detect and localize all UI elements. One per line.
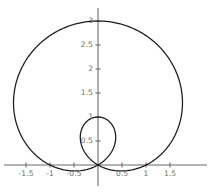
x-tick-label-5: 1.5 bbox=[164, 169, 176, 178]
x-tick-label-0: -1.5 bbox=[18, 169, 33, 178]
x-tick-label-3: 0.5 bbox=[116, 169, 128, 178]
plot-canvas: -1.5-1-0.50.511.5 0.511.522.53 bbox=[0, 0, 211, 193]
y-tick-label-1: 1 bbox=[88, 112, 93, 121]
x-tick-label-1: -1 bbox=[46, 169, 54, 178]
plot-background bbox=[0, 0, 211, 193]
y-tick-label-2: 1.5 bbox=[81, 88, 93, 97]
x-tick-label-4: 1 bbox=[144, 169, 149, 178]
y-tick-label-5: 3 bbox=[88, 16, 93, 25]
y-tick-label-0: 0.5 bbox=[81, 136, 93, 145]
polar-curve-plot: -1.5-1-0.50.511.5 0.511.522.53 bbox=[0, 0, 211, 193]
x-tick-label-2: -0.5 bbox=[66, 169, 81, 178]
y-tick-label-3: 2 bbox=[88, 64, 93, 73]
y-tick-label-4: 2.5 bbox=[81, 40, 93, 49]
